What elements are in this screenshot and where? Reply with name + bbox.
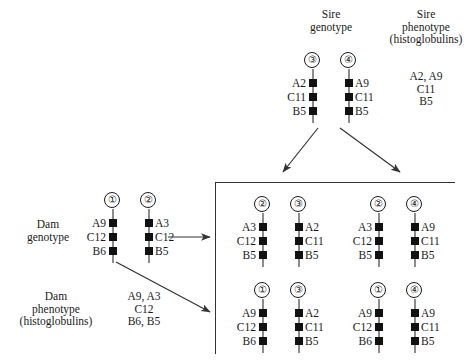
arrow-dam-to-bottom-offspring [116, 262, 210, 312]
genetics-cross-diagram: Sire genotype Sire phenotype (histoglobu… [0, 0, 474, 362]
arrow-sire-to-right-offspring [340, 128, 400, 172]
inheritance-arrows [0, 0, 474, 362]
arrow-sire-to-left-offspring [283, 128, 318, 172]
